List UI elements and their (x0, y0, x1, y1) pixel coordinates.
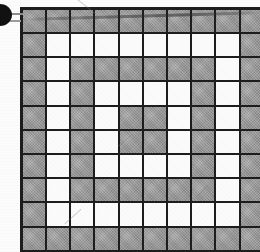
grid-cell[interactable] (93, 80, 119, 106)
grid-cell[interactable] (142, 80, 168, 106)
grid-cell[interactable] (21, 177, 47, 203)
grid-cell[interactable] (69, 105, 95, 131)
grid-cell[interactable] (45, 105, 71, 131)
grid-cell[interactable] (69, 8, 95, 34)
grid-cell[interactable] (21, 80, 47, 106)
pixel-grid[interactable] (20, 7, 260, 252)
grid-cell[interactable] (239, 105, 260, 131)
grid-cell[interactable] (69, 129, 95, 155)
grid-cell[interactable] (214, 177, 240, 203)
grid-cell[interactable] (21, 201, 47, 227)
grid-cell[interactable] (190, 201, 216, 227)
grid-cell[interactable] (118, 226, 144, 252)
grid-cell[interactable] (239, 226, 260, 252)
grid-cell[interactable] (142, 32, 168, 58)
grid-cell[interactable] (21, 129, 47, 155)
grid-cell[interactable] (45, 177, 71, 203)
grid-cell[interactable] (142, 226, 168, 252)
grid-cell[interactable] (21, 32, 47, 58)
grid-cell[interactable] (239, 201, 260, 227)
grid-cell[interactable] (93, 105, 119, 131)
grid-cell[interactable] (190, 177, 216, 203)
grid-cell[interactable] (190, 105, 216, 131)
grid-cell[interactable] (45, 153, 71, 179)
grid-cell[interactable] (239, 153, 260, 179)
grid-cell[interactable] (45, 226, 71, 252)
grid-cell[interactable] (45, 80, 71, 106)
grid-cell[interactable] (93, 32, 119, 58)
grid-cell[interactable] (142, 201, 168, 227)
grid-cell[interactable] (190, 80, 216, 106)
grid-cell[interactable] (69, 177, 95, 203)
grid-cell[interactable] (142, 8, 168, 34)
grid-cell[interactable] (142, 105, 168, 131)
grid-cell[interactable] (239, 8, 260, 34)
grid-cell[interactable] (214, 56, 240, 82)
grid-cell[interactable] (166, 56, 192, 82)
grid-cell[interactable] (214, 129, 240, 155)
grid-cell[interactable] (142, 129, 168, 155)
grid-cell[interactable] (118, 129, 144, 155)
grid-cell[interactable] (190, 32, 216, 58)
grid-cell[interactable] (214, 226, 240, 252)
grid-cell[interactable] (166, 32, 192, 58)
callout-circle-marker[interactable] (0, 4, 12, 26)
grid-cell[interactable] (190, 226, 216, 252)
grid-cell[interactable] (69, 201, 95, 227)
grid-cell[interactable] (239, 56, 260, 82)
grid-cell[interactable] (166, 105, 192, 131)
grid-cell[interactable] (69, 56, 95, 82)
grid-cell[interactable] (190, 153, 216, 179)
grid-cell[interactable] (118, 32, 144, 58)
grid-cell[interactable] (45, 201, 71, 227)
grid-cell[interactable] (118, 153, 144, 179)
grid-cell[interactable] (239, 129, 260, 155)
grid-cell[interactable] (93, 201, 119, 227)
grid-cell[interactable] (239, 80, 260, 106)
grid-cell[interactable] (166, 8, 192, 34)
grid-cell[interactable] (166, 177, 192, 203)
grid-cell[interactable] (166, 201, 192, 227)
grid-cell[interactable] (239, 32, 260, 58)
grid-cell[interactable] (214, 105, 240, 131)
grid-cell[interactable] (93, 226, 119, 252)
grid-cell[interactable] (190, 129, 216, 155)
grid-cell[interactable] (118, 80, 144, 106)
grid-cell[interactable] (190, 8, 216, 34)
grid-cell[interactable] (214, 80, 240, 106)
grid-cell[interactable] (239, 177, 260, 203)
grid-cell[interactable] (69, 80, 95, 106)
grid-cell[interactable] (166, 153, 192, 179)
grid-cell[interactable] (118, 8, 144, 34)
grid-cell[interactable] (21, 226, 47, 252)
grid-cell[interactable] (214, 201, 240, 227)
grid-cell[interactable] (93, 56, 119, 82)
grid-cell[interactable] (45, 8, 71, 34)
grid-cell[interactable] (45, 129, 71, 155)
grid-cell[interactable] (69, 153, 95, 179)
grid-cell[interactable] (142, 56, 168, 82)
grid-cell[interactable] (166, 129, 192, 155)
grid-cell[interactable] (45, 32, 71, 58)
grid-cell[interactable] (93, 8, 119, 34)
grid-cell[interactable] (93, 129, 119, 155)
grid-cell[interactable] (190, 56, 216, 82)
grid-cell[interactable] (142, 153, 168, 179)
grid-cell[interactable] (45, 56, 71, 82)
grid-cell[interactable] (21, 8, 47, 34)
grid-cell[interactable] (118, 177, 144, 203)
grid-cell[interactable] (93, 177, 119, 203)
grid-cell[interactable] (93, 153, 119, 179)
grid-cell[interactable] (214, 8, 240, 34)
grid-cell[interactable] (118, 105, 144, 131)
grid-cell[interactable] (214, 153, 240, 179)
grid-cell[interactable] (69, 226, 95, 252)
grid-cell[interactable] (166, 80, 192, 106)
grid-cell[interactable] (21, 153, 47, 179)
grid-cell[interactable] (69, 32, 95, 58)
grid-cell[interactable] (118, 201, 144, 227)
grid-cell[interactable] (142, 177, 168, 203)
grid-cell[interactable] (21, 56, 47, 82)
grid-cell[interactable] (21, 105, 47, 131)
grid-cell[interactable] (214, 32, 240, 58)
